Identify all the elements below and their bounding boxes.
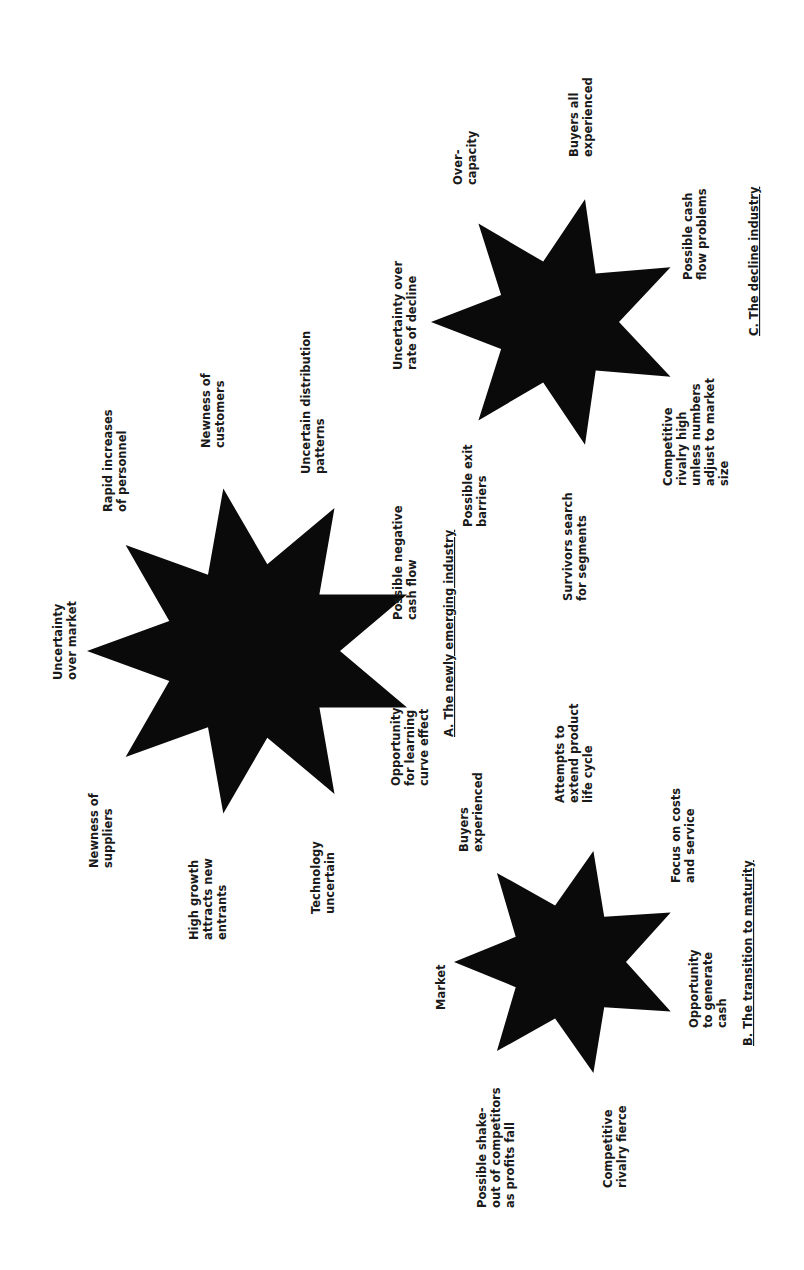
star-point-label: Opportunityfor learningcurve effect: [389, 707, 431, 786]
diagram-title-emerging: A. The newly emerging industry: [442, 529, 456, 737]
diagram-title-decline: C. The decline industry: [747, 186, 761, 336]
star-point-label: Technologyuncertain: [309, 841, 337, 914]
star-point-label: Uncertainty overrate of decline: [391, 261, 419, 370]
star-point-label: Possible exitbarriers: [461, 444, 489, 527]
star-point-label: Attempts toextend productlife cycle: [553, 703, 595, 803]
star-point-label: Opportunityto generatecash: [687, 949, 729, 1028]
star-point-label: Market: [434, 964, 448, 1010]
star-point-label: Newness ofsuppliers: [87, 792, 115, 868]
star-point-label: Buyersexperienced: [457, 772, 485, 852]
star-point-label: Newness ofcustomers: [199, 372, 227, 448]
diagram-transition-maturity: BuyersexperiencedAttempts toextend produ…: [434, 703, 755, 1208]
diagram-decline-industry: Uncertainty overrate of declineOver-capa…: [391, 77, 761, 601]
star-point-label: High growthattracts newentrants: [187, 858, 229, 940]
diagram-emerging-industry: Uncertaintyover marketNewness ofsupplier…: [51, 331, 456, 940]
star-point-label: Uncertaintyover market: [51, 601, 79, 680]
star-point-label: Buyers allexperienced: [567, 77, 595, 157]
industry-lifecycle-diagram: Uncertaintyover marketNewness ofsupplier…: [0, 0, 804, 1270]
star-point-label: Possible shake-out of competitorsas prof…: [475, 1087, 517, 1208]
star-point-label: Possible negativecash flow: [391, 505, 419, 620]
star-point-label: Uncertain distributionpatterns: [299, 331, 327, 474]
star-point-label: Rapid increasesof personnel: [101, 409, 129, 512]
star-point-label: Over-capacity: [451, 130, 479, 185]
star-9-point-icon: [87, 489, 407, 814]
diagram-title-maturity: B. The transition to maturity: [741, 860, 755, 1046]
star-point-label: Competitiverivalry highunless numbersadj…: [661, 378, 731, 486]
star-point-label: Focus on costsand service: [669, 788, 697, 883]
star-point-label: Competitiverivalry fierce: [601, 1105, 629, 1188]
star-7-point-icon: [431, 199, 671, 445]
star-point-label: Survivors searchfor segments: [561, 492, 589, 601]
star-point-label: Possible cashflow problems: [681, 188, 709, 280]
star-7-point-icon: [454, 851, 671, 1073]
